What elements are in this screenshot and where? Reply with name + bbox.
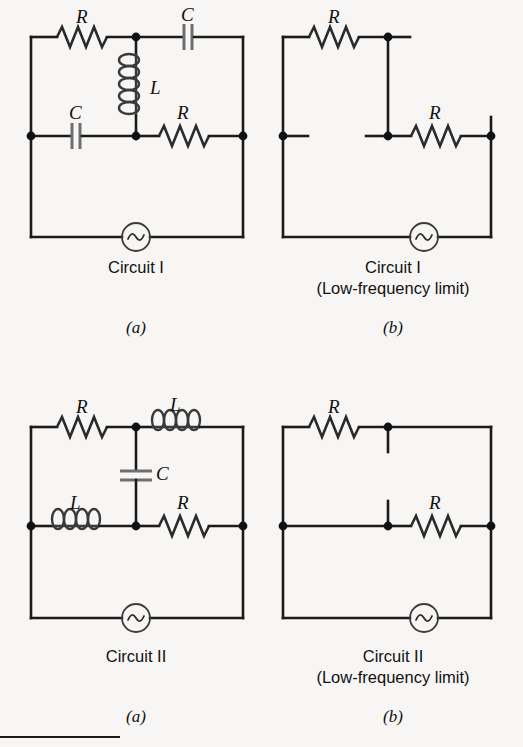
panel-circuit-2-low-freq: R R	[260, 390, 523, 640]
capacitor	[120, 471, 152, 480]
junction-node	[384, 132, 393, 141]
ac-source	[410, 223, 438, 251]
resistor	[159, 126, 209, 146]
label-inductor-middle: L	[150, 78, 161, 97]
panel-circuit-1-full: R C L C R	[0, 0, 262, 260]
resistor	[57, 417, 107, 437]
label-inductor-top-right: L	[170, 395, 181, 414]
junction-node	[239, 522, 248, 531]
label-resistor-middle-right: R	[429, 493, 441, 512]
label-capacitor-middle-left: C	[69, 103, 82, 122]
circuit-2-low-freq-schematic	[260, 390, 523, 640]
junction-node	[132, 132, 141, 141]
capacitor	[184, 24, 192, 50]
caption-circuit-1-low-freq: Circuit I (Low-frequency limit)	[283, 257, 503, 298]
label-resistor-middle-right: R	[429, 103, 441, 122]
junction-node	[132, 522, 141, 531]
circuit-figure: R C L C R Circuit I (a)	[0, 0, 523, 747]
junction-node	[384, 423, 393, 432]
inductor	[119, 54, 139, 116]
subcaption-a: (a)	[26, 707, 246, 727]
junction-node	[27, 522, 36, 531]
label-resistor-middle-right: R	[177, 493, 189, 512]
junction-node	[384, 522, 393, 531]
label-capacitor-top-right: C	[181, 5, 194, 24]
resistor	[309, 27, 359, 47]
resistor	[411, 516, 461, 536]
subcaption-b: (b)	[283, 707, 503, 727]
label-resistor-top-left: R	[76, 7, 88, 26]
label-capacitor-middle: C	[156, 464, 169, 483]
label-inductor-middle-left: L	[70, 493, 81, 512]
resistor	[309, 417, 359, 437]
ac-source	[122, 604, 150, 632]
junction-node	[487, 132, 496, 141]
junction-node	[132, 33, 141, 42]
subcaption-a: (a)	[26, 318, 246, 338]
junction-node	[487, 522, 496, 531]
page-footer-rule	[0, 736, 120, 738]
label-resistor-top-left: R	[76, 397, 88, 416]
junction-node	[27, 132, 36, 141]
label-resistor-top-left: R	[328, 7, 340, 26]
subcaption-b: (b)	[283, 318, 503, 338]
junction-node	[384, 33, 393, 42]
ac-source	[410, 604, 438, 632]
junction-node	[279, 522, 288, 531]
resistor	[159, 516, 209, 536]
panel-circuit-2-full: R L C L R	[0, 390, 262, 640]
circuit-1-low-freq-schematic	[260, 0, 523, 260]
label-resistor-top-left: R	[328, 397, 340, 416]
circuit-2-full-schematic	[0, 390, 262, 640]
junction-node	[132, 423, 141, 432]
junction-node	[279, 132, 288, 141]
caption-circuit-2-low-freq: Circuit II (Low-frequency limit)	[283, 646, 503, 687]
caption-circuit-2-full: Circuit II	[26, 646, 246, 667]
junction-node	[239, 132, 248, 141]
capacitor	[72, 123, 80, 149]
panel-circuit-1-low-freq: R R	[260, 0, 523, 260]
ac-source	[122, 223, 150, 251]
caption-circuit-1-full: Circuit I	[26, 257, 246, 278]
circuit-1-full-schematic	[0, 0, 262, 260]
label-resistor-middle-right: R	[177, 103, 189, 122]
resistor	[57, 27, 107, 47]
resistor	[411, 126, 461, 146]
